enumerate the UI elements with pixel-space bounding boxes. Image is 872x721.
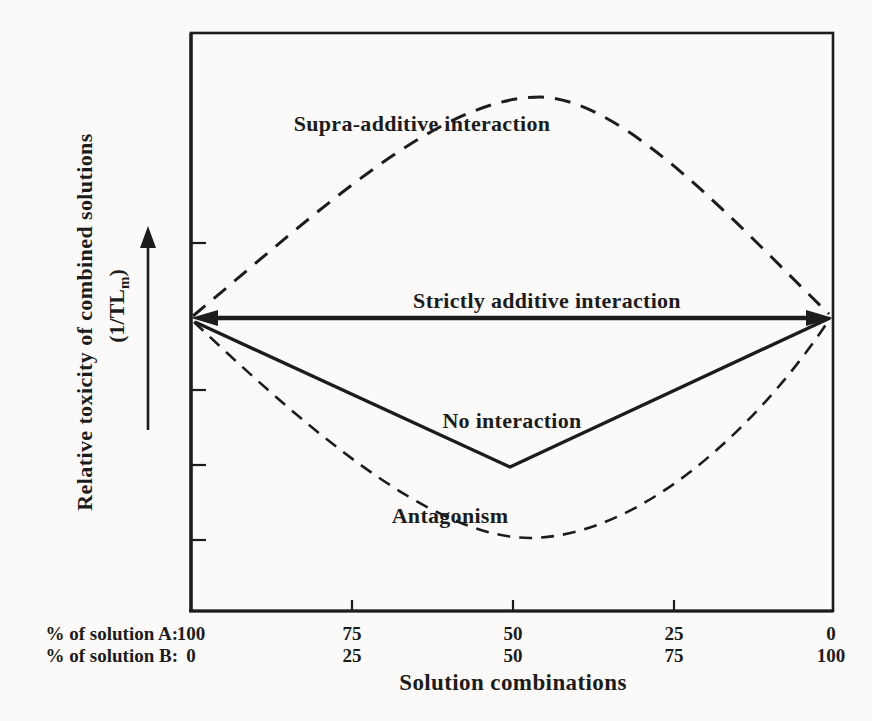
row-b-value: 50 <box>504 645 523 666</box>
row-a-value: 0 <box>826 623 836 644</box>
x-axis-title: Solution combinations <box>399 670 627 695</box>
chart-canvas: Supra-additive interaction Strictly addi… <box>0 0 872 721</box>
supra-additive-label: Supra-additive interaction <box>294 111 551 136</box>
row-a-value: 25 <box>665 623 684 644</box>
y-axis-unit: (1/TLm) <box>104 269 132 343</box>
y-unit-subscript: m <box>116 276 132 289</box>
row-a-value: 100 <box>177 623 206 644</box>
y-axis-ticks <box>192 243 206 540</box>
row-b-value: 25 <box>343 645 362 666</box>
y-unit-pre: (1/TL <box>104 289 129 343</box>
row-a-value: 75 <box>343 623 362 644</box>
antagonism-label: Antagonism <box>392 503 509 528</box>
y-unit-post: ) <box>104 269 129 276</box>
y-direction-arrow <box>140 226 156 430</box>
strictly-additive-label: Strictly additive interaction <box>413 288 681 313</box>
row-b-header: % of solution B: <box>46 645 179 666</box>
row-a-header: % of solution A: <box>46 623 179 644</box>
no-interaction-label: No interaction <box>442 408 581 433</box>
row-b-values: 0 25 50 75 100 <box>186 645 845 666</box>
row-b-value: 75 <box>665 645 684 666</box>
arrowhead-up-icon <box>140 226 156 248</box>
x-axis-ticks <box>352 600 674 610</box>
toxicity-interaction-figure: Supra-additive interaction Strictly addi… <box>0 0 872 721</box>
no-interaction-line <box>195 318 830 467</box>
row-b-value: 100 <box>817 645 846 666</box>
row-a-value: 50 <box>504 623 523 644</box>
row-a-values: 100 75 50 25 0 <box>177 623 836 644</box>
row-b-value: 0 <box>186 645 196 666</box>
y-axis-title: Relative toxicity of combined solutions <box>72 133 97 510</box>
